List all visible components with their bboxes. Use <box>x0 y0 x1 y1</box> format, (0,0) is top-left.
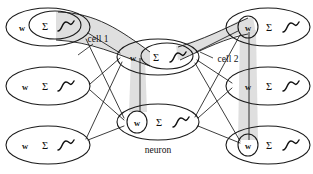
node-center-top-weight-glyph: w <box>130 53 137 63</box>
node-left-middle[interactable]: w Σ <box>6 67 90 105</box>
node-left-middle-sigma-glyph: Σ <box>42 81 48 92</box>
node-left-bottom[interactable]: w Σ <box>6 126 90 164</box>
diagram-canvas: w Σ w Σ w Σ w Σ w <box>0 0 313 174</box>
node-right-middle-weight-glyph: w <box>245 82 252 92</box>
node-right-bottom-sigma-glyph: Σ <box>266 140 272 151</box>
node-left-middle-weight-glyph: w <box>22 82 29 92</box>
node-right-middle-sigma-glyph: Σ <box>266 81 272 92</box>
neuron-label: neuron <box>145 145 172 155</box>
node-right-bottom[interactable]: w Σ <box>226 126 310 164</box>
node-left-bottom-sigma-glyph: Σ <box>42 140 48 151</box>
edge-left-bottom-center-top <box>86 62 122 139</box>
cell-1-label: cell 1 <box>88 34 109 44</box>
node-right-top-sigma-glyph: Σ <box>266 22 272 33</box>
node-center-bottom-sigma-glyph: Σ <box>156 117 162 128</box>
cell-2-label: cell 2 <box>218 54 239 64</box>
node-right-top-weight-glyph: w <box>245 23 252 33</box>
neural-network-diagram: w Σ w Σ w Σ w Σ w <box>0 0 313 174</box>
node-left-top-weight-glyph: w <box>19 23 26 33</box>
node-center-top[interactable]: w Σ <box>117 39 199 75</box>
node-right-top[interactable]: w Σ <box>226 8 310 46</box>
node-right-bottom-weight-glyph: w <box>245 141 252 151</box>
cell-2-leader-line <box>200 52 213 58</box>
node-left-bottom-weight-glyph: w <box>22 141 29 151</box>
edge-left-middle-center-top <box>90 58 120 84</box>
node-center-top-sigma-glyph: Σ <box>153 52 159 63</box>
node-left-top[interactable]: w Σ <box>6 8 90 46</box>
node-center-bottom[interactable]: w Σ <box>117 104 199 140</box>
node-left-top-sigma-glyph: Σ <box>42 21 48 32</box>
node-right-middle[interactable]: w Σ <box>226 67 310 105</box>
node-center-bottom-weight-glyph: w <box>134 118 141 128</box>
